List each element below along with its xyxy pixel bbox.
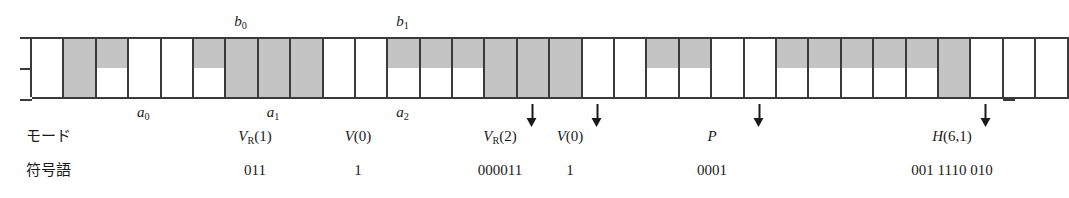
pixel-grid [30, 37, 1069, 97]
coding-line-cell [939, 68, 971, 99]
reference-line-cell [453, 39, 485, 70]
reference-line-cell [388, 39, 420, 70]
codeword-p: 0001 [697, 163, 727, 178]
reference-line-cell [809, 39, 841, 70]
mode-vr2: VR(2) [483, 129, 516, 146]
coding-line-cell [32, 68, 64, 99]
coding-line-cell [421, 68, 453, 99]
reference-line-cell [226, 39, 258, 70]
coding-line-cell [874, 68, 906, 99]
coding-line-cell [64, 68, 96, 99]
arrow-vr2-icon [527, 104, 538, 126]
reference-line-cell [647, 39, 679, 70]
reference-line-cell [421, 39, 453, 70]
reference-line-cell [259, 39, 291, 70]
a2-label: a2 [396, 105, 409, 122]
reference-line-cell [777, 39, 809, 70]
coding-line-cell [615, 68, 647, 99]
reference-line-cell [291, 39, 323, 70]
mode-v0-first: V(0) [345, 129, 372, 144]
coding-line-cell [745, 68, 777, 99]
reference-line-cell [97, 39, 129, 70]
arrow-p-icon [754, 104, 765, 126]
coding-line-cell [129, 68, 161, 99]
codeword-v0-first: 1 [354, 163, 362, 178]
reference-line-cell [485, 39, 517, 70]
coding-line-cell [1004, 68, 1036, 99]
coding-line-cell [518, 68, 550, 99]
codeword-vr1: 011 [244, 163, 266, 178]
reference-line-cell [32, 39, 64, 70]
mode-h61: H(6,1) [932, 129, 972, 144]
reference-line-cell [1004, 39, 1036, 70]
coding-line-cell [971, 68, 1003, 99]
coding-line-cell [162, 68, 194, 99]
coding-line-cell [777, 68, 809, 99]
reference-line-cell [939, 39, 971, 70]
reference-line-cell [874, 39, 906, 70]
mode-p: P [707, 129, 716, 144]
b1-label: b1 [396, 14, 409, 31]
reference-line-cell [907, 39, 939, 70]
reference-line-cell [615, 39, 647, 70]
coding-line-cell [259, 68, 291, 99]
coding-line-cell [907, 68, 939, 99]
mode-row-caption: モード [26, 129, 71, 144]
coding-line-cell [291, 68, 323, 99]
reference-line-cell [129, 39, 161, 70]
reference-line-cell [64, 39, 96, 70]
reference-line-cell [356, 39, 388, 70]
reference-line-row [32, 39, 1069, 68]
coding-line-cell [194, 68, 226, 99]
codeword-row-caption: 符号語 [26, 163, 71, 178]
reference-line-cell [162, 39, 194, 70]
reference-line-cell [712, 39, 744, 70]
reference-line-cell [518, 39, 550, 70]
coding-line-cell [485, 68, 517, 99]
coding-line-cell [1036, 68, 1068, 99]
grid-bottom-rule-overhang-left [20, 99, 32, 101]
arrow-h61-icon [980, 104, 991, 126]
coding-line-cell [356, 68, 388, 99]
a1-label: a1 [267, 105, 280, 122]
coding-line-cell [647, 68, 679, 99]
mode-v0-second: V(0) [557, 129, 584, 144]
coding-line-cell [226, 68, 258, 99]
reference-line-cell [583, 39, 615, 70]
coding-line-cell [324, 68, 356, 99]
reference-line-cell [745, 39, 777, 70]
a0-label: a0 [137, 105, 150, 122]
codeword-h61: 001 1110 010 [911, 163, 992, 178]
arrow-v0-second-icon [592, 104, 603, 126]
coding-line-cell [453, 68, 485, 99]
codeword-vr2: 000011 [478, 163, 522, 178]
mode-vr1: VR(1) [238, 129, 271, 146]
coding-line-cell [842, 68, 874, 99]
reference-line-cell [194, 39, 226, 70]
reference-line-cell [842, 39, 874, 70]
codeword-v0-second: 1 [566, 163, 574, 178]
reference-line-cell [1036, 39, 1068, 70]
coding-line-cell [712, 68, 744, 99]
b0-label: b0 [234, 14, 247, 31]
reference-line-cell [971, 39, 1003, 70]
reference-line-cell [550, 39, 582, 70]
coding-line-cell [809, 68, 841, 99]
coding-line-row [32, 68, 1069, 97]
coding-line-cell [550, 68, 582, 99]
coding-line-cell [388, 68, 420, 99]
coding-line-cell [97, 68, 129, 99]
grid-bottom-rule-overhang-right [1003, 99, 1015, 101]
coding-line-cell [680, 68, 712, 99]
reference-line-cell [324, 39, 356, 70]
coding-line-cell [583, 68, 615, 99]
reference-line-cell [680, 39, 712, 70]
